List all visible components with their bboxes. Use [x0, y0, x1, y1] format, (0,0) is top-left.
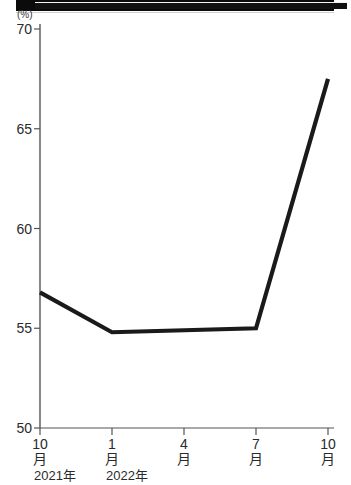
x-axis-tick-month-unit: 月 [88, 452, 136, 467]
x-axis-tick-month-unit: 月 [304, 452, 351, 467]
x-axis-tick-label: 10月 [16, 437, 64, 467]
x-axis-tick-label: 4月 [160, 437, 208, 467]
x-axis-year-label: 2021年 [34, 469, 76, 483]
x-axis-tick-month-number: 1 [88, 437, 136, 452]
y-axis-tick-label: 55 [4, 321, 32, 335]
x-axis-year-label: 2022年 [106, 469, 148, 483]
x-axis-tick-month-unit: 月 [232, 452, 280, 467]
x-axis-tick-month-number: 10 [304, 437, 351, 452]
x-axis-tick-month-number: 4 [160, 437, 208, 452]
x-axis-tick-month-number: 10 [16, 437, 64, 452]
x-axis-tick-marks [40, 428, 328, 435]
x-axis-tick-month-unit: 月 [160, 452, 208, 467]
x-axis-tick-month-number: 7 [232, 437, 280, 452]
y-axis-tick-label: 50 [4, 421, 32, 435]
x-axis-tick-label: 10月 [304, 437, 351, 467]
y-axis-tick-label: 70 [4, 22, 32, 36]
y-axis-tick-label: 60 [4, 222, 32, 236]
x-axis-tick-label: 7月 [232, 437, 280, 467]
x-axis-tick-label: 1月 [88, 437, 136, 467]
y-axis-tick-label: 65 [4, 122, 32, 136]
data-series-line [40, 79, 328, 332]
y-axis-tick-marks [34, 29, 40, 428]
x-axis-tick-month-unit: 月 [16, 452, 64, 467]
